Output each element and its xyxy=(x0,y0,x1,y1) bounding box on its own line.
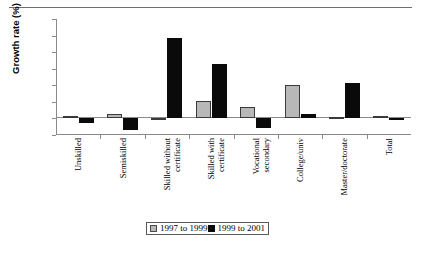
bar-group xyxy=(278,19,322,135)
legend-item: 1997 to 1999 xyxy=(150,224,208,233)
bar-group xyxy=(367,19,411,135)
bar-group xyxy=(100,19,144,135)
top-divider-rule xyxy=(9,7,412,8)
y-axis: Growth rate (%) –20020406080100120 xyxy=(0,0,56,140)
bar-series2 xyxy=(389,118,404,120)
bar-series2 xyxy=(345,83,360,119)
bar-series1 xyxy=(240,107,255,119)
legend-label: 1999 to 2001 xyxy=(218,224,266,233)
bar-series1 xyxy=(373,116,388,118)
bar-group xyxy=(145,19,189,135)
x-category-label-line: College/univ xyxy=(296,138,306,216)
bar-group xyxy=(189,19,233,135)
bar-series1 xyxy=(196,101,211,118)
legend-label: 1997 to 1999 xyxy=(160,224,208,233)
x-category-label-line: certificate xyxy=(172,138,182,216)
x-category-label: Semiskilled xyxy=(119,138,129,216)
chart-legend: 1997 to 1999 1999 to 2001 xyxy=(146,222,269,235)
bar-series1 xyxy=(107,114,122,118)
bar-series1 xyxy=(329,117,344,119)
x-category-label-line: secondary xyxy=(261,138,271,216)
x-category-label: Skilled withcertificate xyxy=(207,138,226,216)
bar-series2 xyxy=(79,118,94,123)
bar-series2 xyxy=(212,64,227,119)
bar-group xyxy=(56,19,100,135)
bar-series2 xyxy=(123,118,138,130)
x-category-label: Master/doctorate xyxy=(340,138,350,216)
bar-series1 xyxy=(63,116,78,118)
y-tick-mark xyxy=(52,135,56,136)
x-category-label: Total xyxy=(385,138,395,216)
x-category-label: Skilled withoutcertificate xyxy=(163,138,182,216)
bar-series2 xyxy=(301,114,316,118)
x-category-label: College/univ xyxy=(296,138,306,216)
bar-group xyxy=(322,19,366,135)
x-category-label-line: Semiskilled xyxy=(119,138,129,216)
x-category-label-line: Master/doctorate xyxy=(340,138,350,216)
legend-swatch-icon xyxy=(208,225,215,232)
bar-series2 xyxy=(167,38,182,118)
x-category-label-line: certificate xyxy=(217,138,227,216)
x-category-label-line: Skilled without xyxy=(163,138,173,216)
legend-item: 1999 to 2001 xyxy=(208,224,266,233)
x-category-label-line: Total xyxy=(385,138,395,216)
bar-group xyxy=(234,19,278,135)
x-category-label-line: Unskilled xyxy=(74,138,84,216)
bar-series1 xyxy=(151,118,166,120)
x-axis-labels: UnskilledSemiskilledSkilled withoutcerti… xyxy=(56,138,411,216)
bar-series1 xyxy=(285,85,300,118)
chart-figure: Growth rate (%) –20020406080100120 Unski… xyxy=(0,0,421,254)
x-category-label-line: Vocational xyxy=(252,138,262,216)
x-category-label: Unskilled xyxy=(74,138,84,216)
legend-swatch-icon xyxy=(150,225,157,232)
bar-series2 xyxy=(256,118,271,128)
x-category-label: Vocationalsecondary xyxy=(252,138,271,216)
bar-groups xyxy=(56,19,411,135)
y-axis-title: Growth rate (%) xyxy=(10,0,21,99)
